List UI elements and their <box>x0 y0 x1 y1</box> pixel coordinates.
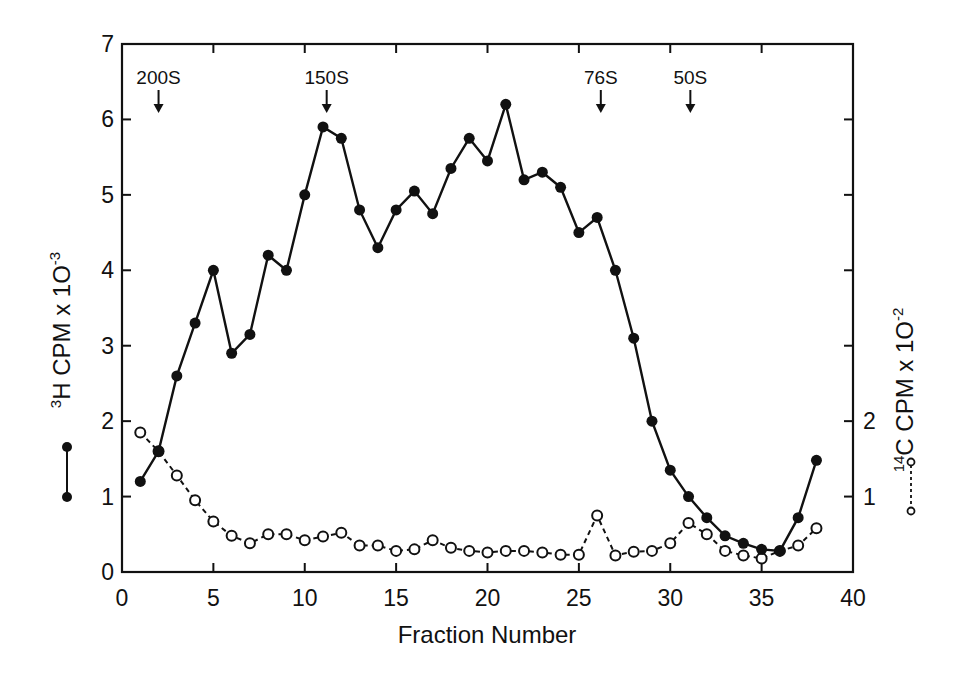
data-point-14c <box>556 550 566 560</box>
series-3h-filled-circles <box>135 99 822 557</box>
data-point-3h <box>190 318 201 329</box>
data-point-3h <box>573 227 584 238</box>
data-point-3h <box>793 512 804 523</box>
y-tick-label-left: 6 <box>101 106 114 132</box>
data-point-14c <box>208 516 218 526</box>
marker-label: 50S <box>673 67 707 88</box>
legend-14c-dashed-line-icon <box>908 459 915 515</box>
legend-dot-bottom <box>62 492 72 502</box>
data-point-14c <box>684 518 694 528</box>
data-point-14c <box>355 541 365 551</box>
y-tick-label-left: 4 <box>101 257 114 283</box>
data-point-14c <box>391 546 401 556</box>
data-point-3h <box>263 250 274 261</box>
data-point-3h <box>208 265 219 276</box>
left-axis-title-text: 3H CPM x 1O-3 <box>46 252 75 408</box>
legend-open-dot-bottom <box>908 508 915 515</box>
data-point-14c <box>190 495 200 505</box>
data-point-3h <box>519 174 530 185</box>
data-point-3h <box>537 167 548 178</box>
data-point-14c <box>464 546 474 556</box>
data-point-14c <box>647 546 657 556</box>
data-point-3h <box>756 544 767 555</box>
x-axis-ticks: 0510152025303540 <box>116 44 866 611</box>
data-point-14c <box>574 550 584 560</box>
x-axis-title: Fraction Number <box>398 621 577 648</box>
marker-label: 200S <box>136 67 180 88</box>
data-point-14c <box>811 523 821 533</box>
marker-76s: 76S <box>584 67 618 113</box>
legend-dot-top <box>62 442 72 452</box>
data-point-3h <box>391 204 402 215</box>
marker-label: 150S <box>304 67 348 88</box>
data-point-3h <box>409 186 420 197</box>
x-tick-label: 20 <box>475 585 501 611</box>
data-point-14c <box>428 535 438 545</box>
data-point-3h <box>336 133 347 144</box>
data-point-14c <box>610 550 620 560</box>
marker-50s: 50S <box>673 67 707 113</box>
left-y-axis-title: 3H CPM x 1O-3 <box>46 252 75 408</box>
data-point-14c <box>245 538 255 548</box>
data-point-14c <box>227 531 237 541</box>
data-point-3h <box>738 538 749 549</box>
data-point-14c <box>519 546 529 556</box>
data-point-3h <box>318 121 329 132</box>
arrow-head-icon <box>685 104 695 113</box>
data-point-14c <box>629 547 639 557</box>
data-point-14c <box>720 546 730 556</box>
x-tick-label: 25 <box>566 585 592 611</box>
arrow-head-icon <box>322 104 332 113</box>
data-point-3h <box>464 133 475 144</box>
y-tick-label-left: 5 <box>101 182 114 208</box>
data-point-14c <box>702 529 712 539</box>
plot-border <box>122 44 853 572</box>
data-point-14c <box>300 535 310 545</box>
data-point-3h <box>592 212 603 223</box>
data-point-14c <box>501 546 511 556</box>
data-point-3h <box>354 204 365 215</box>
plot-frame <box>122 44 853 572</box>
data-point-14c <box>409 544 419 554</box>
data-point-3h <box>811 455 822 466</box>
y-tick-label-left: 2 <box>101 408 114 434</box>
series-14c-line <box>140 432 816 558</box>
y-tick-label-left: 0 <box>101 559 114 585</box>
data-point-3h <box>683 491 694 502</box>
data-point-3h <box>445 163 456 174</box>
data-point-3h <box>171 370 182 381</box>
data-point-14c <box>665 538 675 548</box>
y-tick-label-left: 1 <box>101 484 114 510</box>
data-point-3h <box>646 416 657 427</box>
data-point-14c <box>318 532 328 542</box>
x-tick-label: 30 <box>657 585 683 611</box>
data-point-3h <box>427 208 438 219</box>
series-3h-line <box>140 104 816 551</box>
data-point-14c <box>336 528 346 538</box>
data-point-3h <box>628 333 639 344</box>
left-y-axis-ticks: 01234567 <box>101 31 853 585</box>
right-y-axis-ticks: 12 <box>863 408 876 509</box>
data-point-3h <box>774 545 785 556</box>
data-point-3h <box>665 465 676 476</box>
data-point-14c <box>263 529 273 539</box>
data-point-3h <box>500 99 511 110</box>
data-point-14c <box>592 510 602 520</box>
right-y-axis-title: 14C CPM x 1O-2 <box>889 308 918 473</box>
data-point-14c <box>135 427 145 437</box>
data-point-3h <box>226 348 237 359</box>
data-point-3h <box>482 155 493 166</box>
data-point-3h <box>555 182 566 193</box>
data-point-14c <box>446 543 456 553</box>
y-tick-label-left: 3 <box>101 333 114 359</box>
data-point-3h <box>153 446 164 457</box>
data-point-14c <box>537 547 547 557</box>
arrow-head-icon <box>596 104 606 113</box>
data-point-3h <box>299 189 310 200</box>
marker-label: 76S <box>584 67 618 88</box>
marker-150s: 150S <box>304 67 348 113</box>
x-tick-label: 35 <box>749 585 775 611</box>
arrow-head-icon <box>154 104 164 113</box>
data-point-3h <box>244 329 255 340</box>
y-tick-label-right: 1 <box>863 484 876 510</box>
